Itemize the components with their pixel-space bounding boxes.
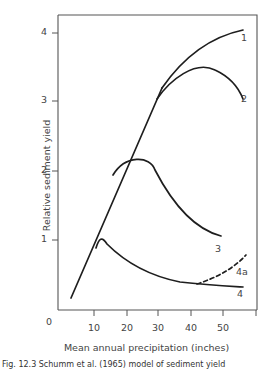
curve-label-1: 1 xyxy=(241,32,247,43)
x-tick-label: 40 xyxy=(185,322,197,333)
plot-frame xyxy=(58,15,257,310)
x-tick-label: 0 xyxy=(46,316,52,327)
rising-limb xyxy=(71,88,162,298)
y-tick-label: 4 xyxy=(41,26,47,37)
curve-label-4: 4 xyxy=(237,288,243,299)
curve-2 xyxy=(157,67,243,99)
figure-caption: Fig. 12.3 Schumm et al. (1965) model of … xyxy=(2,360,225,369)
x-tick-label: 10 xyxy=(88,322,100,333)
x-ticks xyxy=(94,310,256,316)
curve-label-3: 3 xyxy=(215,243,221,254)
curve-label-4a: 4a xyxy=(236,266,248,277)
x-tick-label: 30 xyxy=(152,322,164,333)
x-tick-label: 20 xyxy=(121,322,133,333)
y-tick-label: 3 xyxy=(41,94,47,105)
y-ticks xyxy=(52,33,58,240)
x-tick-label: 50 xyxy=(217,322,229,333)
x-axis-title: Mean annual precipitation (inches) xyxy=(12,342,269,353)
curve-3 xyxy=(113,159,221,236)
curve-label-2: 2 xyxy=(241,93,247,104)
y-axis-title: Relative sediment yield xyxy=(41,106,52,246)
